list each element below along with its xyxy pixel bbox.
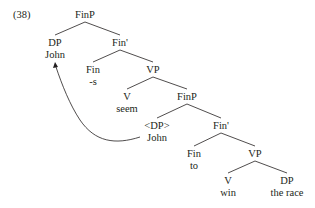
node-word: John (144, 132, 169, 144)
tree-node: FinP (75, 9, 95, 21)
tree-edge (255, 161, 287, 173)
tree-edge (55, 22, 85, 35)
tree-edge (120, 50, 153, 62)
tree-node: DPJohn (45, 37, 65, 61)
tree-node: FinP (177, 91, 197, 103)
node-category: Fin' (213, 120, 229, 132)
node-category: V (116, 91, 138, 103)
node-category: Fin (86, 64, 100, 76)
node-word: the race (271, 187, 304, 199)
tree-edge (153, 77, 187, 89)
node-category: DP (45, 37, 65, 49)
node-category: DP (271, 175, 304, 187)
node-category: VP (248, 148, 261, 160)
tree-edge (194, 133, 221, 146)
node-word: to (187, 160, 201, 172)
tree-edge (157, 104, 187, 118)
node-category: V (220, 175, 236, 187)
tree-node: <DP>John (144, 120, 169, 144)
tree-node: Fin-s (86, 64, 100, 88)
node-word: win (220, 187, 236, 199)
tree-node: DPthe race (271, 175, 304, 199)
node-category: VP (146, 64, 159, 76)
tree-edge (228, 161, 255, 173)
node-category: Fin (187, 148, 201, 160)
tree-edge (127, 77, 153, 89)
tree-edge (85, 22, 120, 35)
tree-edge (93, 50, 120, 62)
tree-node: Vseem (116, 91, 138, 115)
tree-node: Fin' (112, 37, 128, 49)
node-word: John (45, 49, 65, 61)
arrowhead-icon (53, 62, 58, 68)
node-category: Fin' (112, 37, 128, 49)
tree-edge (187, 104, 221, 118)
node-category: FinP (75, 9, 95, 21)
node-category: FinP (177, 91, 197, 103)
node-category: <DP> (144, 120, 169, 132)
tree-node: VP (146, 64, 159, 76)
tree-node: Vwin (220, 175, 236, 199)
syntax-tree (0, 0, 315, 208)
tree-node: Finto (187, 148, 201, 172)
node-word: -s (86, 76, 100, 88)
tree-node: VP (248, 148, 261, 160)
tree-node: Fin' (213, 120, 229, 132)
tree-edge (221, 133, 255, 146)
node-word: seem (116, 103, 138, 115)
